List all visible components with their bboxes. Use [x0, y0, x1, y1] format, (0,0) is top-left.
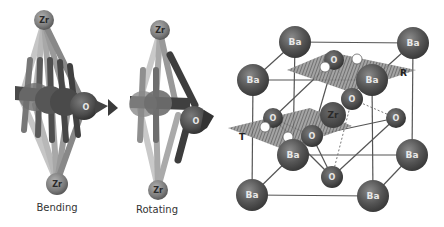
rotating-caption: Rotating: [136, 204, 178, 215]
svg-text:O: O: [329, 173, 336, 182]
zr-center-atom: Zr: [320, 102, 346, 128]
bending-arrow-head: [108, 99, 118, 116]
ba-atom: Ba: [396, 139, 428, 171]
svg-text:Ba: Ba: [366, 75, 379, 85]
svg-text:Ba: Ba: [367, 191, 380, 201]
o-atom: O: [321, 166, 343, 188]
svg-text:Ba: Ba: [406, 150, 419, 160]
ba-atom: Ba: [237, 64, 269, 96]
perovskite-diagram: O Zr Zr Bending O Zr Zr Rotating: [0, 0, 444, 227]
svg-text:O: O: [349, 95, 356, 104]
svg-text:O: O: [331, 56, 338, 65]
rotating-zr-bottom-label: Zr: [153, 186, 163, 195]
ba-atom: Ba: [279, 26, 311, 58]
ba-atom: Ba: [397, 27, 429, 59]
svg-text:Ba: Ba: [247, 75, 260, 85]
svg-text:Ba: Ba: [407, 38, 420, 48]
svg-text:Ba: Ba: [246, 190, 259, 200]
bending-zr-bottom-label: Zr: [52, 180, 62, 189]
unit-cell-panel: Ba Ba Ba Zr O O O O: [228, 26, 429, 212]
rotating-panel: O Zr Zr Rotating: [129, 20, 214, 215]
svg-text:Ba: Ba: [287, 150, 300, 160]
ba-atom: Ba: [236, 179, 268, 211]
rotating-zr-top-label: Zr: [155, 26, 165, 35]
bending-o-label: O: [83, 103, 90, 112]
ba-atom: Ba: [277, 139, 309, 171]
bending-panel: O Zr Zr Bending: [15, 10, 118, 213]
svg-text:O: O: [393, 114, 400, 123]
svg-text:Ba: Ba: [289, 37, 302, 47]
svg-text:Zr: Zr: [328, 110, 340, 120]
bending-zr-top-label: Zr: [39, 16, 49, 25]
ba-atom: Ba: [357, 180, 389, 212]
o-atom: O: [341, 88, 363, 110]
plane-r-label: R: [400, 68, 407, 78]
bending-caption: Bending: [36, 202, 77, 213]
svg-text:O: O: [309, 132, 316, 141]
ba-atom: Ba: [356, 64, 388, 96]
plane-t-label: T: [239, 132, 246, 142]
rotating-o-label: O: [193, 117, 200, 126]
o-atom: O: [386, 108, 406, 128]
svg-text:O: O: [270, 114, 277, 123]
